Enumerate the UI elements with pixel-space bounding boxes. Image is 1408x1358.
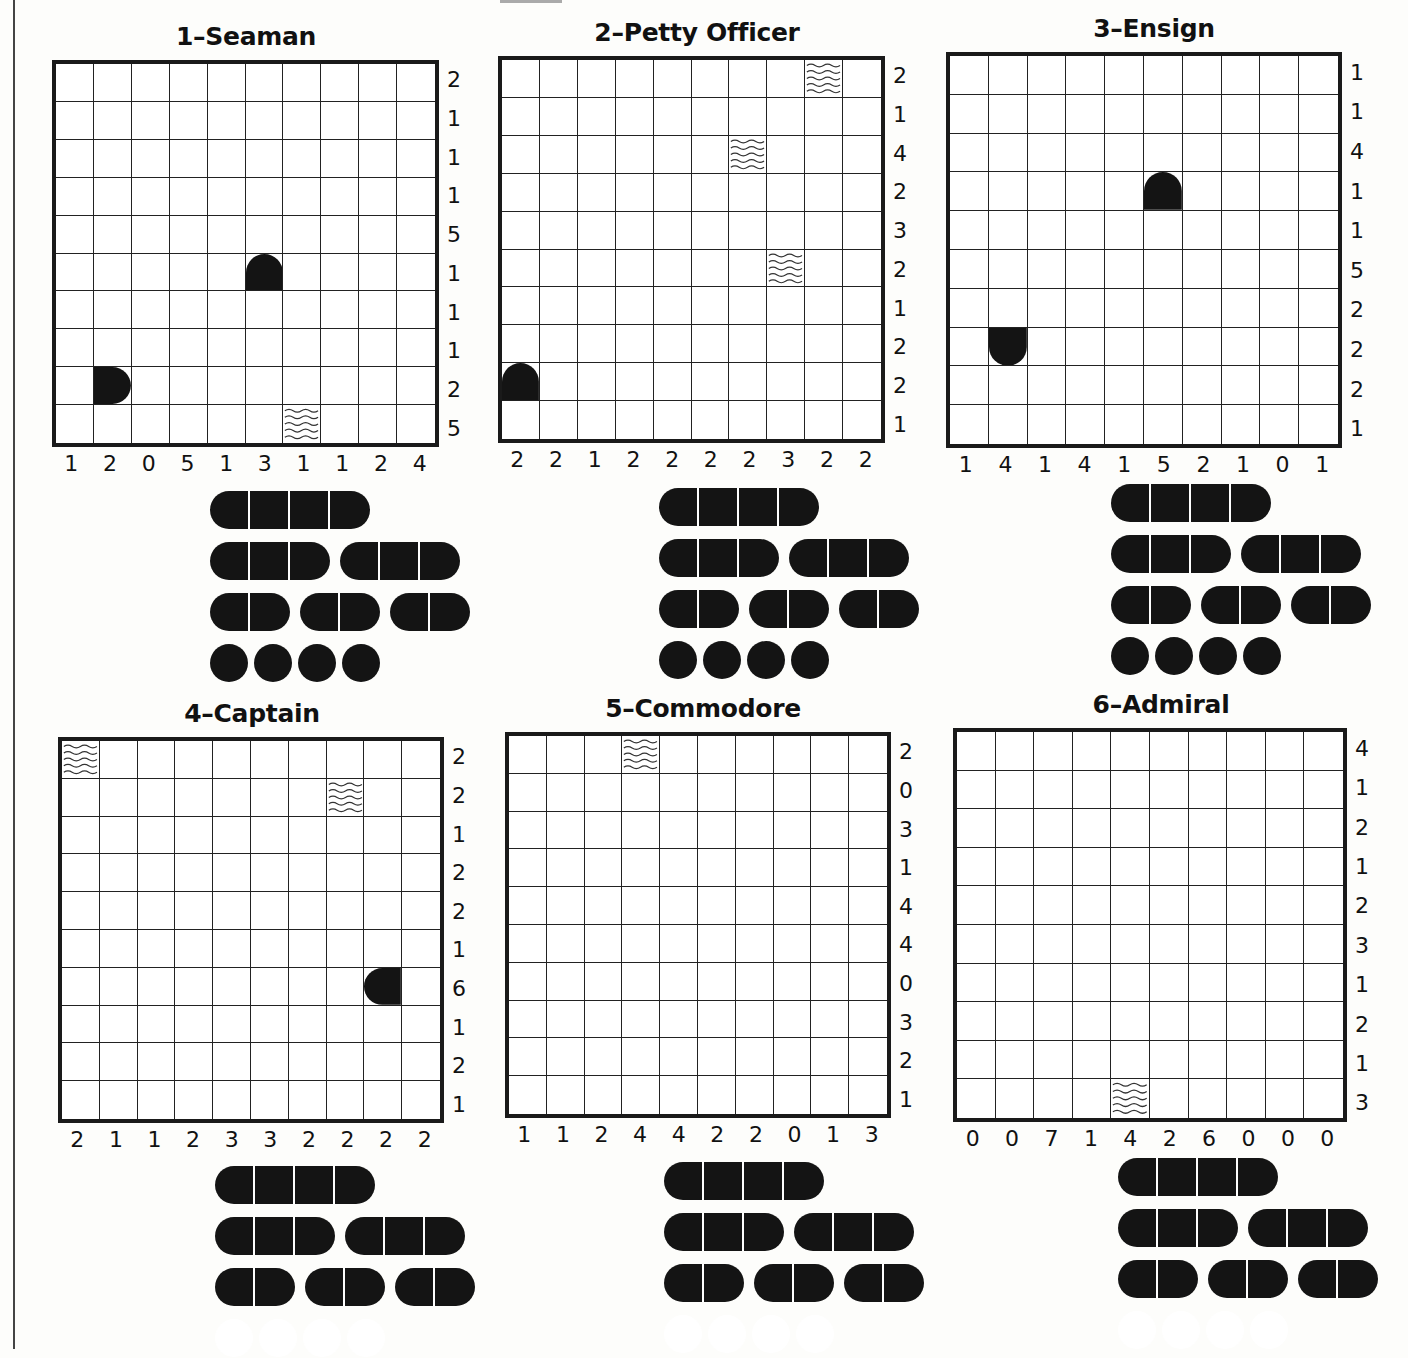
grid-cell[interactable] xyxy=(1034,732,1073,771)
grid-cell[interactable] xyxy=(100,741,138,779)
grid-cell[interactable] xyxy=(132,254,170,292)
grid-cell[interactable] xyxy=(213,1006,251,1044)
grid-cell[interactable] xyxy=(213,1043,251,1081)
grid-cell[interactable] xyxy=(1227,809,1266,848)
grid-cell[interactable] xyxy=(1150,1041,1189,1080)
grid-cell[interactable] xyxy=(1105,405,1144,444)
grid-cell[interactable] xyxy=(578,401,616,439)
grid-cell[interactable] xyxy=(1073,809,1112,848)
grid-cell[interactable] xyxy=(654,136,692,174)
grid-cell[interactable] xyxy=(774,849,812,887)
grid-cell[interactable] xyxy=(1028,328,1067,367)
grid-cell[interactable] xyxy=(1299,95,1338,134)
grid-cell[interactable] xyxy=(616,325,654,363)
grid-cell[interactable] xyxy=(692,250,730,288)
grid-cell[interactable] xyxy=(321,291,359,329)
grid-cell[interactable] xyxy=(327,779,365,817)
grid-cell[interactable] xyxy=(996,809,1035,848)
grid-cell[interactable] xyxy=(138,930,176,968)
grid-cell[interactable] xyxy=(138,968,176,1006)
grid-cell[interactable] xyxy=(989,172,1028,211)
grid-cell[interactable] xyxy=(94,216,132,254)
grid-cell[interactable] xyxy=(327,1006,365,1044)
grid-cell[interactable] xyxy=(289,854,327,892)
grid-cell[interactable] xyxy=(660,1001,698,1039)
grid-cell[interactable] xyxy=(1111,1002,1150,1041)
grid-cell[interactable] xyxy=(170,178,208,216)
grid-cell[interactable] xyxy=(1105,211,1144,250)
grid-cell[interactable] xyxy=(132,178,170,216)
grid-cell[interactable] xyxy=(957,1041,996,1080)
grid-cell[interactable] xyxy=(208,64,246,102)
grid-cell[interactable] xyxy=(364,1043,402,1081)
grid-cell[interactable] xyxy=(397,64,435,102)
grid-cell[interactable] xyxy=(692,287,730,325)
grid-cell[interactable] xyxy=(578,250,616,288)
grid-cell[interactable] xyxy=(251,854,289,892)
grid-cell[interactable] xyxy=(1105,366,1144,405)
grid-cell[interactable] xyxy=(698,887,736,925)
grid-cell[interactable] xyxy=(170,140,208,178)
grid-cell[interactable] xyxy=(327,1081,365,1119)
grid-cell[interactable] xyxy=(1028,172,1067,211)
grid-cell[interactable] xyxy=(289,930,327,968)
grid-cell[interactable] xyxy=(989,250,1028,289)
grid-cell[interactable] xyxy=(698,1076,736,1114)
grid-cell[interactable] xyxy=(585,1076,623,1114)
grid-cell[interactable] xyxy=(540,136,578,174)
grid-cell[interactable] xyxy=(1189,886,1228,925)
grid-cell[interactable] xyxy=(729,136,767,174)
grid-cell[interactable] xyxy=(736,1038,774,1076)
grid-cell[interactable] xyxy=(654,250,692,288)
grid-cell[interactable] xyxy=(1266,809,1305,848)
grid-cell[interactable] xyxy=(660,736,698,774)
grid-cell[interactable] xyxy=(1073,732,1112,771)
grid-cell[interactable] xyxy=(698,925,736,963)
grid-cell[interactable] xyxy=(774,1076,812,1114)
grid-cell[interactable] xyxy=(698,736,736,774)
grid-cell[interactable] xyxy=(616,287,654,325)
grid-cell[interactable] xyxy=(547,1001,585,1039)
grid-cell[interactable] xyxy=(540,98,578,136)
grid-cell[interactable] xyxy=(1034,886,1073,925)
grid-cell[interactable] xyxy=(1266,964,1305,1003)
grid-cell[interactable] xyxy=(100,892,138,930)
grid-cell[interactable] xyxy=(805,401,843,439)
grid-cell[interactable] xyxy=(100,1006,138,1044)
grid-cell[interactable] xyxy=(585,812,623,850)
grid-cell[interactable] xyxy=(1028,95,1067,134)
grid-cell[interactable] xyxy=(289,779,327,817)
grid-cell[interactable] xyxy=(251,1043,289,1081)
grid-cell[interactable] xyxy=(1150,809,1189,848)
grid-cell[interactable] xyxy=(767,401,805,439)
grid-cell[interactable] xyxy=(578,136,616,174)
grid-cell[interactable] xyxy=(321,140,359,178)
grid-cell[interactable] xyxy=(100,1043,138,1081)
grid-cell[interactable] xyxy=(1111,925,1150,964)
grid-cell[interactable] xyxy=(540,287,578,325)
grid-cell[interactable] xyxy=(213,817,251,855)
grid-cell[interactable] xyxy=(213,892,251,930)
grid-cell[interactable] xyxy=(585,1001,623,1039)
grid-cell[interactable] xyxy=(502,136,540,174)
grid-cell[interactable] xyxy=(547,1076,585,1114)
grid-cell[interactable] xyxy=(692,212,730,250)
grid-cell[interactable] xyxy=(359,367,397,405)
grid-cell[interactable] xyxy=(1066,289,1105,328)
grid-cell[interactable] xyxy=(654,401,692,439)
grid-cell[interactable] xyxy=(364,854,402,892)
grid-cell[interactable] xyxy=(364,930,402,968)
grid-cell[interactable] xyxy=(996,732,1035,771)
grid-cell[interactable] xyxy=(957,1079,996,1118)
grid-cell[interactable] xyxy=(1266,1041,1305,1080)
grid-cell[interactable] xyxy=(1144,95,1183,134)
grid-cell[interactable] xyxy=(811,849,849,887)
grid-cell[interactable] xyxy=(989,328,1028,367)
grid-cell[interactable] xyxy=(989,211,1028,250)
grid-cell[interactable] xyxy=(175,779,213,817)
grid-cell[interactable] xyxy=(698,812,736,850)
grid-cell[interactable] xyxy=(138,817,176,855)
grid-cell[interactable] xyxy=(246,64,284,102)
grid-cell[interactable] xyxy=(1189,1079,1228,1118)
grid-cell[interactable] xyxy=(736,1001,774,1039)
